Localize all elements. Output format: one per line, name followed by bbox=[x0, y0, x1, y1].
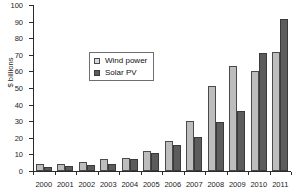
y-tick-label: 80 bbox=[15, 34, 23, 43]
bar-wind-power bbox=[208, 86, 216, 171]
bar-group bbox=[248, 53, 270, 171]
x-tick bbox=[291, 172, 292, 175]
y-tick-label: 10 bbox=[15, 150, 23, 159]
x-tick-label: 2005 bbox=[143, 180, 160, 189]
x-tick-label: 2002 bbox=[78, 180, 95, 189]
x-tick bbox=[205, 172, 206, 175]
x-tick bbox=[162, 172, 163, 175]
y-tick: 80 bbox=[29, 38, 33, 39]
bar-solar-pv bbox=[87, 165, 95, 171]
x-tick bbox=[184, 172, 185, 175]
x-tick bbox=[55, 172, 56, 175]
bar-wind-power bbox=[100, 159, 108, 171]
x-tick-label: 2011 bbox=[272, 180, 288, 189]
x-tick-label: 2008 bbox=[207, 180, 224, 189]
y-tick-label: 0 bbox=[19, 167, 23, 176]
y-tick-label: 90 bbox=[15, 17, 23, 26]
x-tick bbox=[141, 172, 142, 175]
bar-solar-pv bbox=[130, 159, 138, 171]
bar-wind-power bbox=[122, 158, 130, 171]
bar-group bbox=[119, 158, 141, 171]
x-tick bbox=[76, 172, 77, 175]
bar-solar-pv bbox=[173, 145, 181, 171]
bar-solar-pv bbox=[194, 137, 202, 171]
y-tick: 20 bbox=[29, 138, 33, 139]
y-tick-label: 70 bbox=[15, 50, 23, 59]
bar-group bbox=[55, 164, 77, 171]
y-tick: 30 bbox=[29, 121, 33, 122]
y-tick-label: 60 bbox=[15, 67, 23, 76]
bar-group bbox=[162, 141, 184, 171]
bar-solar-pv bbox=[237, 111, 245, 171]
x-tick bbox=[227, 172, 228, 175]
y-tick-label: 50 bbox=[15, 84, 23, 93]
bar-solar-pv bbox=[280, 19, 288, 171]
plot-area: 0102030405060708090100 20002001200220032… bbox=[33, 5, 291, 172]
y-tick: 100 bbox=[29, 5, 33, 6]
y-tick-label: 40 bbox=[15, 100, 23, 109]
y-tick-label: 20 bbox=[15, 133, 23, 142]
x-tick-label: 2003 bbox=[100, 180, 117, 189]
x-tick bbox=[33, 172, 34, 175]
bar-group bbox=[76, 162, 98, 171]
bar-wind-power bbox=[272, 52, 280, 171]
y-tick: 60 bbox=[29, 71, 33, 72]
chart-legend: Wind power Solar PV bbox=[89, 52, 154, 81]
y-tick-label: 100 bbox=[10, 1, 23, 10]
x-tick-label: 2010 bbox=[250, 180, 267, 189]
bar-solar-pv bbox=[216, 122, 224, 171]
bar-solar-pv bbox=[151, 153, 159, 171]
legend-item-solar-pv: Solar PV bbox=[94, 68, 147, 77]
x-tick bbox=[248, 172, 249, 175]
legend-item-wind-power: Wind power bbox=[94, 56, 147, 65]
bar-wind-power bbox=[79, 162, 87, 171]
x-tick-label: 2009 bbox=[229, 180, 246, 189]
y-tick-label: 30 bbox=[15, 117, 23, 126]
y-axis-line bbox=[33, 5, 34, 172]
x-tick-label: 2000 bbox=[35, 180, 52, 189]
bar-group bbox=[227, 66, 249, 171]
y-tick: 70 bbox=[29, 55, 33, 56]
y-tick: 90 bbox=[29, 22, 33, 23]
legend-label-solar-pv: Solar PV bbox=[105, 68, 137, 77]
bar-solar-pv bbox=[259, 53, 267, 171]
bar-wind-power bbox=[186, 121, 194, 171]
x-tick-label: 2001 bbox=[57, 180, 74, 189]
bar-wind-power bbox=[36, 164, 44, 171]
x-tick-label: 2007 bbox=[186, 180, 203, 189]
bar-solar-pv bbox=[108, 164, 116, 171]
legend-swatch-solar-pv bbox=[94, 70, 100, 76]
x-tick bbox=[98, 172, 99, 175]
bar-wind-power bbox=[57, 164, 65, 171]
bar-solar-pv bbox=[65, 166, 73, 171]
bar-group bbox=[184, 121, 206, 171]
x-tick bbox=[270, 172, 271, 175]
x-tick-label: 2004 bbox=[121, 180, 138, 189]
x-tick bbox=[119, 172, 120, 175]
y-axis-title: $ billions bbox=[6, 41, 15, 105]
bar-solar-pv bbox=[44, 167, 52, 171]
bar-chart: $ billions 0102030405060708090100 200020… bbox=[0, 0, 294, 193]
x-tick-label: 2006 bbox=[164, 180, 181, 189]
bar-group bbox=[33, 164, 55, 171]
legend-swatch-wind-power bbox=[94, 58, 100, 64]
bar-group bbox=[270, 19, 292, 171]
legend-label-wind-power: Wind power bbox=[105, 56, 147, 65]
bar-wind-power bbox=[251, 71, 259, 171]
y-tick: 40 bbox=[29, 105, 33, 106]
bar-wind-power bbox=[143, 151, 151, 171]
bar-group bbox=[141, 151, 163, 171]
y-tick: 50 bbox=[29, 88, 33, 89]
bar-group bbox=[98, 159, 120, 171]
y-tick: 10 bbox=[29, 154, 33, 155]
bar-wind-power bbox=[165, 141, 173, 171]
bar-group bbox=[205, 86, 227, 171]
bar-wind-power bbox=[229, 66, 237, 171]
